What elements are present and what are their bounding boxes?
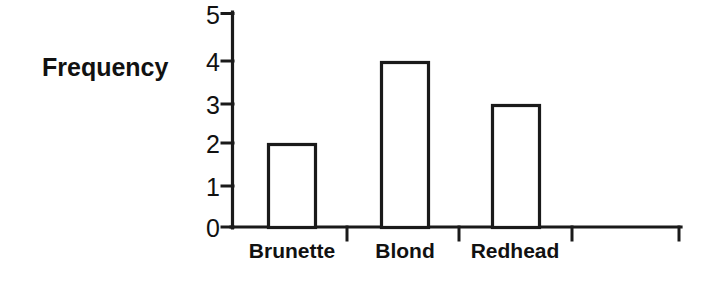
bar-brunette [269, 145, 316, 228]
x-category-label-redhead: Redhead [471, 239, 560, 262]
y-tick-label-0: 0 [206, 214, 220, 242]
frequency-bar-chart: Frequency 5 4 3 2 1 0 Brunette Blond Red… [0, 0, 717, 286]
x-category-label-blond: Blond [375, 239, 434, 262]
bar-chart-screenshot: Frequency 5 4 3 2 1 0 Brunette Blond Red… [0, 0, 717, 286]
bar-blond [382, 63, 429, 228]
y-tick-label-5: 5 [206, 1, 220, 29]
y-tick-label-2: 2 [206, 130, 220, 158]
x-category-label-brunette: Brunette [249, 239, 335, 262]
y-tick-label-1: 1 [206, 173, 220, 201]
y-axis-title: Frequency [42, 53, 169, 81]
y-tick-label-3: 3 [206, 91, 220, 119]
y-tick-label-4: 4 [206, 48, 220, 76]
bar-redhead [493, 106, 540, 228]
